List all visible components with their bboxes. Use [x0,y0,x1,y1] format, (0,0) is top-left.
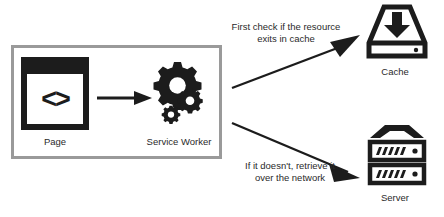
node-service-worker-label: Service Worker [140,136,218,147]
node-cache [366,4,428,62]
browser-window-viewport: <> [27,74,83,124]
code-glyph: <> [27,74,83,124]
node-page: <> [21,57,89,130]
hard-drive-download-icon [366,4,428,62]
edge-cache-caption: First check if the resource exits in cac… [222,21,350,45]
gears-icon [150,60,212,132]
edge-server-caption-line-1: If it doesn't, retrieve it [226,160,354,172]
diagram-canvas: <> Page Service Worker [0,0,444,217]
node-server [366,122,428,186]
edge-cache-caption-line-2: exits in cache [222,33,350,45]
node-server-label: Server [350,192,440,203]
node-service-worker [150,60,212,132]
edge-server-caption-line-2: over the network [226,172,354,184]
browser-window-code-icon: <> [21,57,89,130]
edge-cache-caption-line-1: First check if the resource [222,21,350,33]
edge-server-caption: If it doesn't, retrieve it over the netw… [226,160,354,184]
node-cache-label: Cache [350,66,440,77]
server-rack-icon [366,122,428,186]
node-page-label: Page [21,136,89,147]
